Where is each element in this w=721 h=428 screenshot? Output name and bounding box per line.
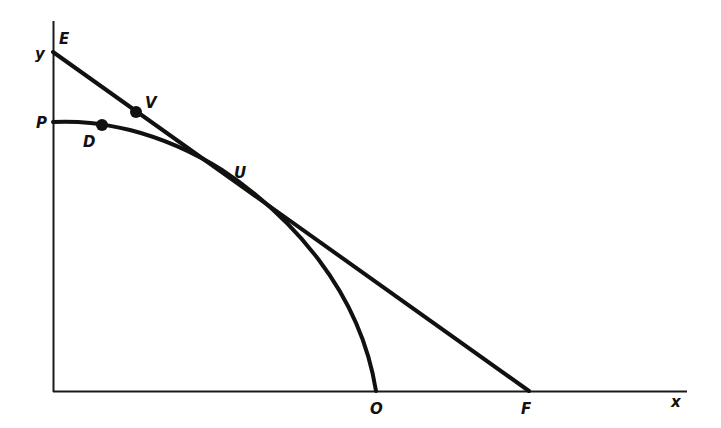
label-e: E: [59, 30, 70, 48]
point-d-marker: [96, 119, 108, 131]
point-v-marker: [130, 106, 142, 118]
line-ef: [53, 52, 529, 391]
label-d: D: [83, 133, 95, 151]
label-u: U: [234, 164, 246, 182]
label-o: O: [370, 400, 383, 418]
diagram-canvas: E y P D V U O F x: [0, 0, 721, 428]
curve-po: [53, 122, 376, 391]
label-p: P: [36, 114, 47, 132]
label-f: F: [521, 400, 532, 418]
label-v: V: [145, 94, 158, 112]
label-x-axis: x: [670, 393, 682, 411]
label-y-axis: y: [35, 45, 46, 63]
